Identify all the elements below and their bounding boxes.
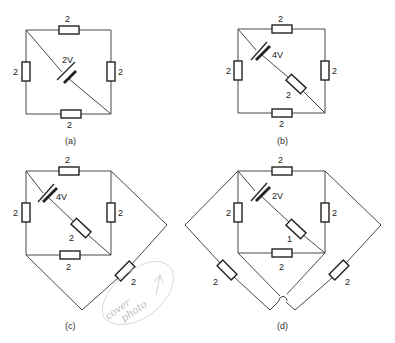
label-c-top: 2 (65, 155, 70, 165)
circuit-d: 2 2 2 2 2V 1 2 2 (d) (185, 155, 381, 331)
resistor-b-left (234, 61, 242, 80)
battery-d-icon (251, 183, 270, 201)
label-d-left: 2 (226, 208, 231, 218)
resistor-d-bottom (272, 249, 292, 257)
label-b-diagonal-resistor: 2 (286, 90, 291, 100)
arrow-up-icon (154, 275, 163, 295)
label-d-bottom: 2 (279, 262, 284, 272)
caption-c: (c) (65, 321, 76, 331)
circuit-figure: 2 2 2 2 2V (a) 2 2 2 2 4V 2 (b) (0, 0, 395, 343)
label-d-diagonal-resistor: 1 (287, 234, 292, 244)
caption-a: (a) (65, 136, 76, 146)
label-a-top: 2 (65, 14, 70, 24)
handwritten-note: cover photo (102, 262, 173, 325)
label-c-right: 2 (118, 208, 123, 218)
resistor-b-right (321, 61, 329, 80)
label-d-right: 2 (332, 208, 337, 218)
resistor-a-bottom (61, 110, 81, 118)
label-a-right: 2 (118, 67, 123, 77)
resistor-c-right (107, 203, 115, 222)
label-c-diagonal-resistor: 2 (69, 233, 74, 243)
resistor-d-left (234, 203, 242, 222)
resistor-a-top (59, 26, 79, 34)
label-b-right: 2 (332, 66, 337, 76)
battery-a-icon (57, 62, 76, 83)
label-b-bottom: 2 (279, 119, 284, 129)
label-d-external-left-resistor: 2 (213, 277, 218, 287)
label-b-left: 2 (226, 66, 231, 76)
label-b-battery: 4V (272, 50, 283, 60)
circuit-a: 2 2 2 2 2V (a) (13, 14, 123, 146)
label-c-bottom: 2 (66, 262, 71, 272)
label-d-external-right-resistor: 2 (345, 277, 350, 287)
resistor-c-top (59, 167, 79, 175)
resistor-c-left (22, 203, 30, 222)
resistor-a-right (107, 62, 115, 81)
label-b-top: 2 (278, 14, 283, 24)
label-c-battery: 4V (56, 192, 67, 202)
label-d-top: 2 (278, 155, 283, 165)
resistor-b-bottom (272, 109, 292, 117)
resistor-d-top (272, 167, 292, 175)
label-a-battery: 2V (62, 55, 73, 65)
caption-d: (d) (277, 321, 288, 331)
battery-b-icon (251, 42, 270, 60)
caption-b: (b) (277, 136, 288, 146)
resistor-c-bottom (60, 251, 80, 259)
battery-c-icon (38, 184, 57, 202)
resistor-b-top (272, 25, 292, 33)
resistor-d-external-left (217, 260, 237, 280)
circuit-b: 2 2 2 2 4V 2 (b) (226, 14, 337, 146)
label-a-left: 2 (13, 67, 18, 77)
label-d-battery: 2V (272, 191, 283, 201)
label-c-left: 2 (13, 208, 18, 218)
label-a-bottom: 2 (67, 120, 72, 130)
label-c-external-resistor: 2 (131, 277, 136, 287)
resistor-a-left (22, 62, 30, 81)
resistor-d-right (321, 203, 329, 222)
